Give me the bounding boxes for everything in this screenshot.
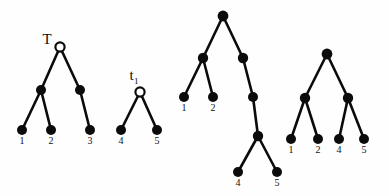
leaf-label: 1 xyxy=(182,102,187,113)
tree-group-tree-3[interactable]: 1245 xyxy=(179,11,282,188)
tree-node[interactable] xyxy=(198,53,208,63)
tree-node[interactable] xyxy=(208,92,218,102)
tree-node[interactable] xyxy=(248,92,258,102)
leaf-label: 4 xyxy=(119,135,124,146)
tree-group-tree-t1[interactable]: 45t1 xyxy=(116,67,162,146)
tree-node[interactable] xyxy=(300,93,310,103)
tree-name-label: t1 xyxy=(129,67,138,86)
tree-edge xyxy=(41,90,51,130)
tree-edge xyxy=(121,92,140,130)
tree-leaf-labels: 123 xyxy=(20,135,93,146)
tree-node[interactable] xyxy=(286,134,296,144)
tree-edge xyxy=(203,16,223,58)
tree-node[interactable] xyxy=(343,93,353,103)
leaf-label: 1 xyxy=(289,144,294,155)
leaf-label: 2 xyxy=(211,102,216,113)
tree-node[interactable] xyxy=(116,125,126,135)
leaf-label: 5 xyxy=(155,135,160,146)
leaf-label: 5 xyxy=(275,177,280,188)
tree-edge xyxy=(140,92,157,130)
tree-figure-svg: 123T45t112451245 xyxy=(0,0,389,196)
leaf-label: 4 xyxy=(236,177,241,188)
tree-edges xyxy=(121,92,157,130)
leaf-label: 2 xyxy=(49,135,54,146)
tree-edge xyxy=(223,16,243,58)
tree-node[interactable] xyxy=(322,49,333,60)
tree-edge xyxy=(238,136,258,172)
tree-name-subscript: 1 xyxy=(134,76,139,86)
tree-node[interactable] xyxy=(179,92,189,102)
tree-nodes xyxy=(116,87,162,135)
tree-edges xyxy=(184,16,277,172)
tree-edge xyxy=(60,47,80,90)
tree-node[interactable] xyxy=(46,125,56,135)
tree-edge xyxy=(41,47,60,90)
tree-edge xyxy=(258,136,277,172)
tree-leaf-labels: 1245 xyxy=(289,144,367,155)
tree-edge xyxy=(80,90,90,130)
tree-figure-canvas: 123T45t112451245 xyxy=(0,0,389,196)
leaf-label: 1 xyxy=(20,135,25,146)
leaf-label: 5 xyxy=(362,144,367,155)
tree-edge xyxy=(22,90,41,130)
tree-node[interactable] xyxy=(233,167,243,177)
tree-edge xyxy=(305,54,327,98)
tree-node[interactable] xyxy=(85,125,95,135)
tree-leaf-labels: 45 xyxy=(119,135,160,146)
tree-node[interactable] xyxy=(253,131,263,141)
tree-node[interactable] xyxy=(75,85,85,95)
tree-leaf-labels: 1245 xyxy=(182,102,280,188)
tree-node-root-hollow[interactable] xyxy=(55,42,64,51)
tree-edge xyxy=(305,98,318,139)
tree-node[interactable] xyxy=(272,167,282,177)
tree-edge xyxy=(339,98,348,139)
tree-nodes xyxy=(286,49,369,144)
leaf-label: 4 xyxy=(337,144,342,155)
tree-node[interactable] xyxy=(359,134,369,144)
tree-node[interactable] xyxy=(238,53,248,63)
tree-node[interactable] xyxy=(218,11,229,22)
leaf-label: 2 xyxy=(316,144,321,155)
tree-edge xyxy=(203,58,213,97)
tree-edge xyxy=(184,58,203,97)
tree-node[interactable] xyxy=(36,85,46,95)
tree-edge xyxy=(348,98,364,139)
tree-group-tree-T[interactable]: 123T xyxy=(17,31,95,146)
tree-node-root-hollow[interactable] xyxy=(135,87,144,96)
tree-edge xyxy=(327,54,348,98)
tree-node[interactable] xyxy=(313,134,323,144)
leaf-label: 3 xyxy=(88,135,93,146)
tree-name-label: T xyxy=(42,31,51,47)
tree-edge xyxy=(291,98,305,139)
tree-group-tree-4[interactable]: 1245 xyxy=(286,49,369,155)
tree-edge xyxy=(253,97,258,136)
tree-edge xyxy=(243,58,253,97)
tree-node[interactable] xyxy=(152,125,162,135)
tree-node[interactable] xyxy=(334,134,344,144)
tree-node[interactable] xyxy=(17,125,27,135)
